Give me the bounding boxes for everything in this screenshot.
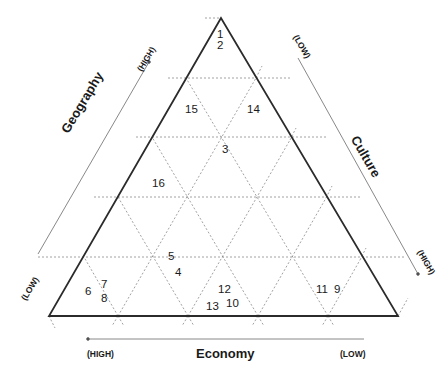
triangle-frame xyxy=(49,18,398,316)
point-12: 12 xyxy=(218,283,231,295)
point-5: 5 xyxy=(168,250,174,262)
ternary-diagram: Geography (HIGH) (LOW) Culture (LOW) (HI… xyxy=(0,0,448,375)
economy-high-label: (HIGH) xyxy=(87,349,114,359)
point-8: 8 xyxy=(101,292,107,304)
point-16: 16 xyxy=(152,177,165,189)
point-2: 2 xyxy=(217,39,223,51)
point-11: 11 xyxy=(316,283,328,295)
ternary-grid-svg xyxy=(0,0,448,375)
point-10: 10 xyxy=(226,297,239,309)
point-7: 7 xyxy=(101,278,107,290)
culture-arrow-head xyxy=(417,273,420,276)
point-13: 13 xyxy=(206,300,219,312)
economy-arrow-head xyxy=(87,338,90,341)
economy-low-label: (LOW) xyxy=(340,349,366,359)
point-14: 14 xyxy=(247,103,260,115)
point-15: 15 xyxy=(185,103,198,115)
point-6: 6 xyxy=(85,285,91,297)
point-4: 4 xyxy=(175,266,181,278)
grid-lines xyxy=(38,18,408,328)
point-3: 3 xyxy=(222,143,228,155)
point-9: 9 xyxy=(334,283,340,295)
economy-axis-title: Economy xyxy=(196,346,255,361)
